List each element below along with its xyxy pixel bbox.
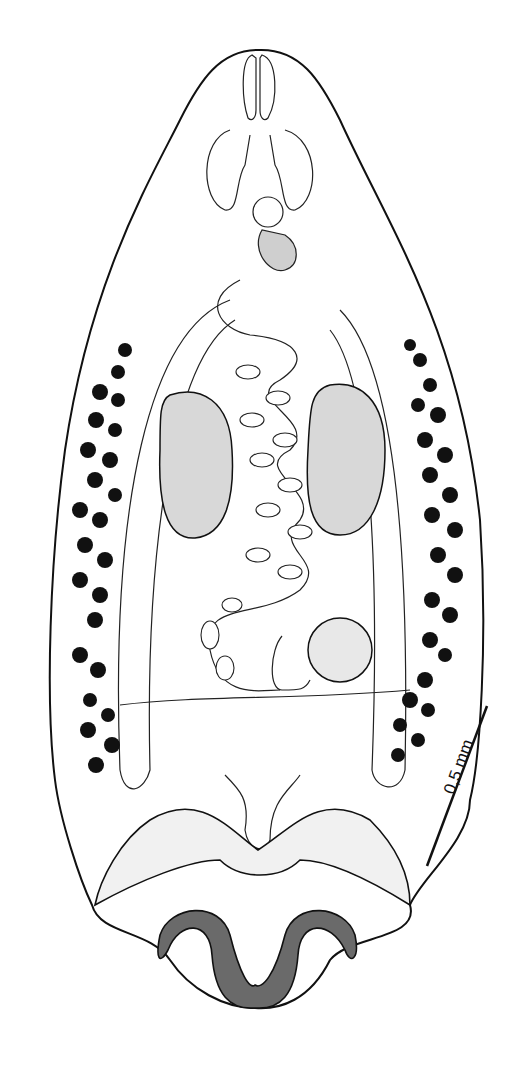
anterior-lobes <box>207 130 313 210</box>
ovary <box>308 618 372 682</box>
specimen-illustration <box>0 0 519 1080</box>
testis-right <box>307 384 385 535</box>
posterior-disc <box>158 911 356 1009</box>
oral-sucker-left <box>243 55 256 120</box>
oral-sucker-right <box>260 55 275 120</box>
testis-left <box>160 392 233 538</box>
genital-pore <box>258 230 296 271</box>
cecum-right <box>330 310 406 787</box>
pharynx <box>253 197 283 227</box>
posterior-organ <box>95 809 410 905</box>
cecum-left <box>118 300 235 789</box>
vitellaria-left <box>72 343 132 773</box>
